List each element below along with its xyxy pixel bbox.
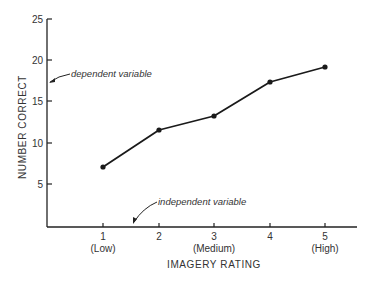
annotation-text: dependent variable: [71, 68, 152, 79]
y-ticks: [47, 19, 52, 184]
data-point: [211, 113, 216, 118]
y-tick-labels: 25 20 15 10 5: [32, 14, 44, 190]
x-tick-label: 5: [322, 231, 328, 242]
line-chart: 25 20 15 10 5 1 2 3 4 5 (Low) (Medium) (…: [0, 0, 375, 281]
data-point: [100, 164, 105, 169]
data-point: [156, 127, 161, 132]
x-tick-label: 1: [100, 231, 106, 242]
annotation-text: independent variable: [158, 196, 246, 207]
y-tick-label: 15: [32, 96, 44, 107]
x-tick-sublabel: (Low): [90, 243, 115, 254]
data-point: [322, 64, 327, 69]
x-axis-title: IMAGERY RATING: [167, 259, 261, 270]
annotation-dependent: dependent variable: [49, 68, 152, 83]
y-axis-title: NUMBER CORRECT: [17, 75, 28, 179]
arrow-icon: [134, 202, 157, 222]
y-tick-label: 5: [37, 179, 43, 190]
x-tick-label: 4: [267, 231, 273, 242]
x-tick-sublabel: (Medium): [193, 243, 235, 254]
y-tick-label: 20: [32, 55, 44, 66]
data-point: [267, 79, 272, 84]
y-tick-label: 10: [32, 138, 44, 149]
y-tick-label: 25: [32, 14, 44, 25]
annotation-independent: independent variable: [133, 196, 246, 224]
x-tick-label: 2: [156, 231, 162, 242]
data-points: [100, 64, 327, 169]
x-tick-label: 3: [211, 231, 217, 242]
x-tick-sublabel: (High): [311, 243, 338, 254]
x-tick-labels: 1 2 3 4 5 (Low) (Medium) (High): [90, 231, 338, 254]
